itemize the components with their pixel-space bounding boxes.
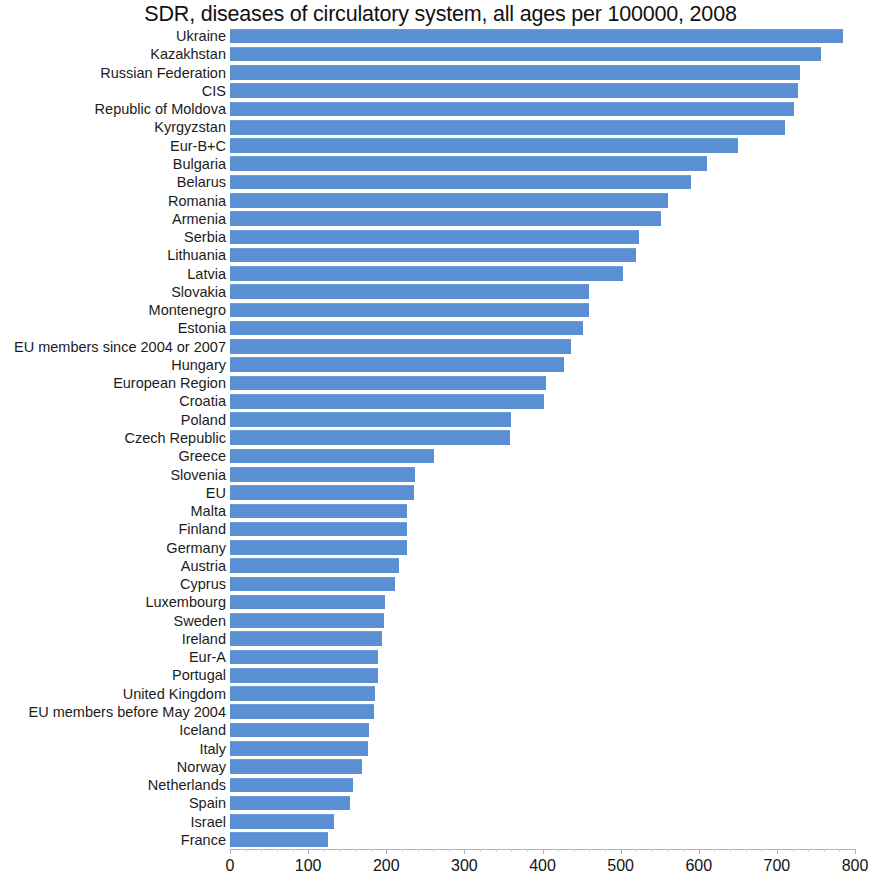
bar-row: Armenia: [0, 210, 881, 228]
bar-category-label: European Region: [113, 376, 226, 391]
x-axis-tick-label: 100: [295, 857, 322, 875]
x-axis-tick-minor: [746, 849, 747, 852]
bar: [230, 631, 382, 645]
bar-fill: [230, 303, 589, 318]
bar-category-label: Armenia: [172, 212, 226, 227]
x-axis-tick-minor: [808, 849, 809, 852]
x-axis-tick-minor: [636, 849, 637, 852]
bar-category-label: Austria: [181, 559, 226, 574]
x-axis-tick-minor: [402, 849, 403, 852]
bar-row: Spain: [0, 794, 881, 812]
bar-row: Slovenia: [0, 465, 881, 483]
bar-fill: [230, 211, 661, 226]
chart-container: SDR, diseases of circulatory system, all…: [0, 0, 881, 882]
bar: [230, 29, 843, 43]
bar-fill: [230, 741, 368, 756]
bar-row: Romania: [0, 191, 881, 209]
bar-row: Republic of Moldova: [0, 100, 881, 118]
x-axis-tick-label: 800: [842, 857, 869, 875]
bar-row: Ukraine: [0, 27, 881, 45]
bar: [230, 83, 798, 97]
bar-category-label: Greece: [178, 449, 226, 464]
bar: [230, 376, 546, 390]
bar-category-label: Portugal: [172, 668, 226, 683]
bar-fill: [230, 668, 378, 683]
bar-fill: [230, 394, 544, 409]
bar: [230, 248, 636, 262]
bar: [230, 595, 385, 609]
bar-fill: [230, 83, 798, 98]
bar-row: CIS: [0, 82, 881, 100]
x-axis-tick-major: [230, 849, 231, 854]
bar: [230, 467, 415, 481]
bar-category-label: Lithuania: [167, 248, 226, 263]
bar-category-label: Republic of Moldova: [95, 102, 226, 117]
bar-row: Poland: [0, 411, 881, 429]
bar-fill: [230, 650, 378, 665]
bar: [230, 504, 407, 518]
x-axis-tick-label: 500: [607, 857, 634, 875]
x-axis-tick-minor: [324, 849, 325, 852]
bar-fill: [230, 120, 785, 135]
bar-category-label: Norway: [177, 760, 226, 775]
bar: [230, 266, 623, 280]
bar-fill: [230, 522, 407, 537]
x-axis-tick-minor: [683, 849, 684, 852]
bar: [230, 668, 378, 682]
bar-row: EU members since 2004 or 2007: [0, 338, 881, 356]
x-axis-tick-minor: [371, 849, 372, 852]
bar-category-label: Montenegro: [149, 303, 226, 318]
x-axis-tick-minor: [480, 849, 481, 852]
bar-row: United Kingdom: [0, 685, 881, 703]
bar-fill: [230, 558, 399, 573]
bar: [230, 558, 399, 572]
bar-row: Finland: [0, 520, 881, 538]
bar-row: Ireland: [0, 630, 881, 648]
bar: [230, 741, 368, 755]
x-axis-tick-label: 300: [451, 857, 478, 875]
bar: [230, 230, 639, 244]
bar: [230, 321, 583, 335]
bar-fill: [230, 467, 415, 482]
bar: [230, 449, 434, 463]
bar: [230, 156, 707, 170]
bar-fill: [230, 175, 691, 190]
bar-row: France: [0, 831, 881, 849]
bar-fill: [230, 540, 407, 555]
bar: [230, 796, 350, 810]
bar: [230, 778, 353, 792]
x-axis-tick-minor: [558, 849, 559, 852]
bar-row: Netherlands: [0, 776, 881, 794]
bar-category-label: Latvia: [187, 266, 226, 281]
bar-category-label: Eur-B+C: [170, 138, 226, 153]
bar-category-label: Bulgaria: [173, 157, 226, 172]
x-axis-tick-minor: [355, 849, 356, 852]
bar-fill: [230, 376, 546, 391]
bar-category-label: Israel: [191, 814, 226, 829]
bar: [230, 339, 571, 353]
bar-fill: [230, 430, 510, 445]
bar-row: Iceland: [0, 721, 881, 739]
bar-category-label: Spain: [189, 796, 226, 811]
bar-row: Cyprus: [0, 575, 881, 593]
x-axis-tick-minor: [761, 849, 762, 852]
x-axis-tick-minor: [605, 849, 606, 852]
bar-row: Estonia: [0, 319, 881, 337]
bar-fill: [230, 832, 328, 847]
bar-row: Bulgaria: [0, 155, 881, 173]
x-axis-tick-minor: [574, 849, 575, 852]
bar-category-label: Slovenia: [170, 467, 226, 482]
bar-category-label: Russian Federation: [100, 65, 226, 80]
x-axis-tick-label: 0: [226, 857, 235, 875]
bar-fill: [230, 704, 374, 719]
bar-row: Greece: [0, 447, 881, 465]
x-axis-tick-minor: [261, 849, 262, 852]
bar-row: Croatia: [0, 392, 881, 410]
x-axis-tick-minor: [730, 849, 731, 852]
x-axis-tick-label: 400: [529, 857, 556, 875]
bar-row: Lithuania: [0, 246, 881, 264]
bar-fill: [230, 339, 571, 354]
bar-row: EU: [0, 484, 881, 502]
bar-row: Montenegro: [0, 301, 881, 319]
bar-fill: [230, 266, 623, 281]
